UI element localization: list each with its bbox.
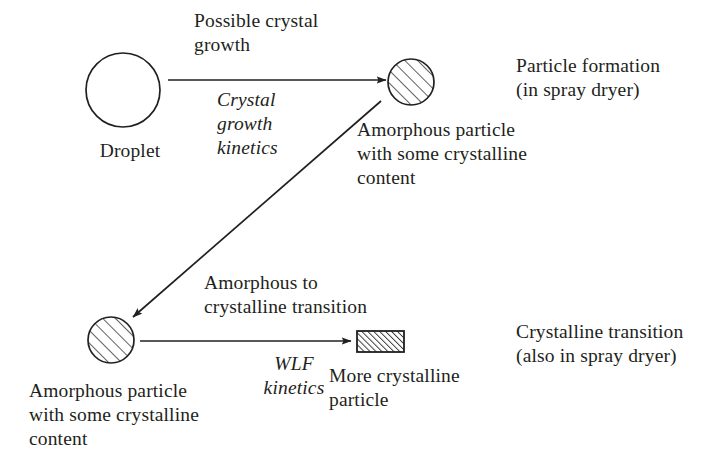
label-possible-crystal-growth: Possible crystal growth <box>194 9 384 57</box>
amorphous-particle-circle-bottom <box>88 317 134 363</box>
label-crystal-growth-kinetics: Crystal growth kinetics <box>217 88 347 160</box>
droplet-circle <box>86 53 160 127</box>
label-more-crystalline-particle: More crystalline particle <box>329 364 479 412</box>
label-crystalline-transition: Crystalline transition (also in spray dr… <box>516 320 725 368</box>
label-amorphous-particle-top: Amorphous particle with some crystalline… <box>357 118 567 190</box>
label-amorphous-particle-bottom: Amorphous particle with some crystalline… <box>29 379 259 451</box>
amorphous-particle-circle-top <box>388 59 434 105</box>
label-droplet: Droplet <box>85 139 175 163</box>
label-amorphous-to-crystalline-transition: Amorphous to crystalline transition <box>204 271 424 319</box>
label-particle-formation: Particle formation (in spray dryer) <box>516 54 716 102</box>
diagram-page: Possible crystal growth Crystal growth k… <box>0 0 725 476</box>
more-crystalline-rectangle <box>357 331 404 352</box>
